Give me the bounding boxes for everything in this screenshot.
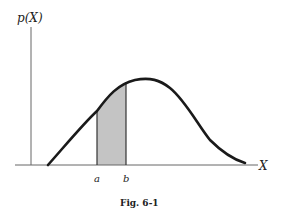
marker-a-label: a [94,173,100,184]
density-curve [48,79,245,165]
marker-b-label: b [123,173,129,184]
probability-density-figure: p(X) X a b Fig. 6-1 [0,0,284,217]
figure-caption: Fig. 6-1 [120,198,159,208]
y-axis-label: p(X) [17,11,43,25]
x-axis-label: X [258,159,268,173]
